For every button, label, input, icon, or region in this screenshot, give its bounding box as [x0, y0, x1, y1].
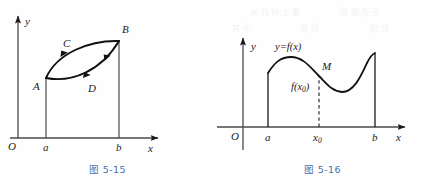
x-tick-label-b: b: [372, 131, 378, 143]
figure-5-16-graphic: O y x a b x0 y=f(x) M f(x0): [215, 0, 430, 160]
arc-upper-C: [46, 41, 119, 78]
origin-label-O: O: [8, 140, 16, 152]
x-tick-label-b: b: [116, 141, 122, 153]
x-axis-label: x: [147, 142, 153, 154]
curve-label-y-equals-f-of-x: y=f(x): [274, 41, 302, 53]
x-axis-label: x: [395, 131, 401, 143]
curve-label-D: D: [87, 82, 96, 94]
curve-label-C: C: [63, 37, 71, 49]
figure-caption-5-15: 图 5-15: [0, 162, 215, 176]
f-x0-close: ): [305, 81, 310, 93]
function-curve: [268, 53, 375, 92]
value-label-f-of-x0: f(x0): [291, 81, 310, 94]
x-tick-label-a: a: [43, 141, 49, 153]
point-label-M: M: [321, 60, 332, 72]
y-axis-label: y: [24, 15, 30, 27]
figure-caption-5-16: 图 5-16: [215, 162, 430, 176]
x-tick-label-x0: x0: [312, 131, 322, 145]
point-label-A: A: [32, 80, 40, 92]
y-axis-label: y: [250, 40, 256, 52]
x-tick-label-a: a: [265, 131, 271, 143]
figure-5-16: O y x a b x0 y=f(x) M f(x0) 图 5-16: [215, 0, 430, 189]
textbook-figure-page: 从 几 何 上 看 如 图 所 示 其 中 曲 线 积 分: [0, 0, 430, 189]
x0-subscript: 0: [318, 136, 322, 145]
origin-label-O: O: [231, 130, 239, 142]
figure-5-15-graphic: O y x a b A B C D: [0, 0, 215, 160]
arc-lower-D-arrow-near-b: [104, 55, 111, 61]
point-label-B: B: [122, 23, 129, 35]
f-x0-base: f(x: [291, 81, 302, 93]
figure-5-15: O y x a b A B C D 图 5-15: [0, 0, 215, 189]
